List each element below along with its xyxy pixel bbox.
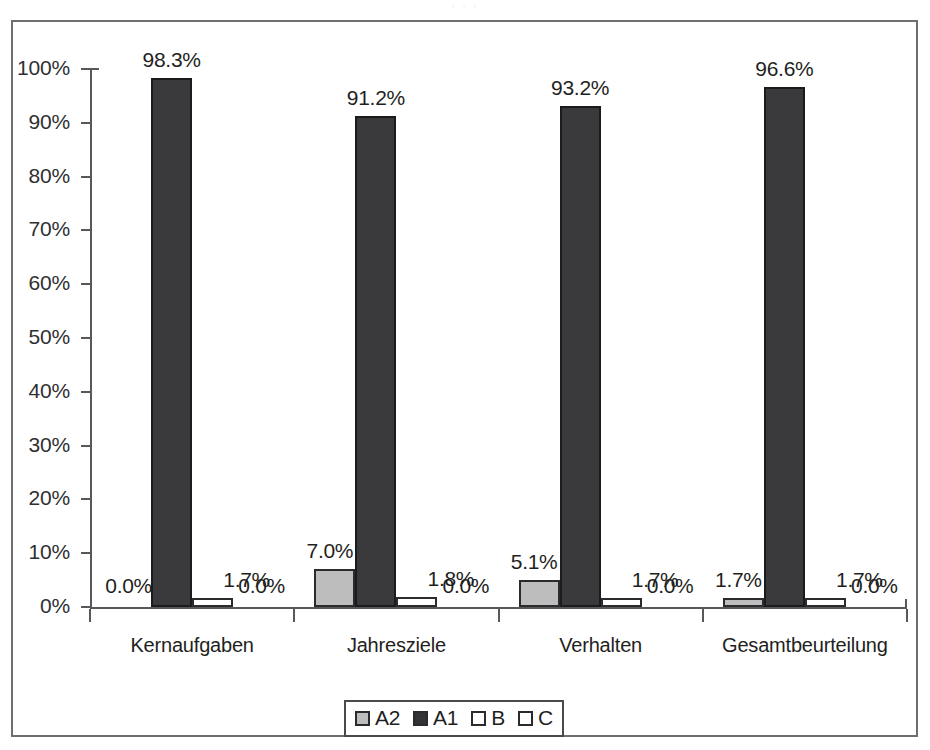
y-axis-tick: 70% bbox=[81, 229, 90, 231]
y-axis-tick-label: 30% bbox=[29, 432, 70, 456]
y-axis-tick: 30% bbox=[81, 445, 90, 447]
bar-value-label-a1-0: 98.3% bbox=[143, 48, 201, 72]
chart-legend: A2A1BC bbox=[344, 700, 564, 737]
y-axis-tick-label: 40% bbox=[29, 378, 70, 402]
bar-value-label-a1-3: 96.6% bbox=[755, 57, 813, 81]
legend-swatch-a2 bbox=[355, 711, 370, 726]
y-axis-tick: 10% bbox=[81, 552, 90, 554]
y-axis-tick: 0% bbox=[81, 606, 90, 608]
y-axis-line bbox=[90, 68, 92, 609]
x-axis-category-label: Jahresziele bbox=[294, 634, 498, 657]
x-axis-end-cap bbox=[905, 599, 907, 609]
bar-value-label-a1-2: 93.2% bbox=[551, 76, 609, 100]
legend-item-a2[interactable]: A2 bbox=[355, 706, 400, 730]
bar-a1-1[interactable] bbox=[355, 116, 396, 607]
y-axis-tick-label: 90% bbox=[29, 109, 70, 133]
bar-value-label-a1-1: 91.2% bbox=[347, 86, 405, 110]
x-axis-tick bbox=[702, 609, 704, 622]
bar-b-3[interactable] bbox=[805, 598, 846, 607]
y-axis-tick-label: 70% bbox=[29, 217, 70, 241]
legend-item-label: A2 bbox=[375, 706, 400, 730]
bar-a1-2[interactable] bbox=[560, 106, 601, 607]
y-axis-tick: 90% bbox=[81, 122, 90, 124]
bar-value-label-c-2: 0.0% bbox=[647, 574, 694, 598]
bar-value-label-a2-0: 0.0% bbox=[105, 574, 152, 598]
y-axis-tick-label: 20% bbox=[29, 486, 70, 510]
bar-value-label-a2-1: 7.0% bbox=[307, 539, 354, 563]
legend-item-label: C bbox=[538, 706, 553, 730]
y-axis-tick-label: 100% bbox=[17, 56, 70, 80]
y-axis-tick: 60% bbox=[81, 283, 90, 285]
y-axis-tick: 50% bbox=[81, 337, 90, 339]
bar-a1-0[interactable] bbox=[151, 78, 192, 607]
cropped-title-artifact: · · · bbox=[0, 0, 930, 12]
x-axis-tick bbox=[498, 609, 500, 622]
bar-a1-3[interactable] bbox=[764, 87, 805, 607]
legend-item-b[interactable]: B bbox=[471, 706, 505, 730]
legend-item-label: B bbox=[491, 706, 505, 730]
x-axis-tick bbox=[293, 609, 295, 622]
bar-value-label-c-0: 0.0% bbox=[238, 574, 285, 598]
x-axis-category-label: Kernaufgaben bbox=[90, 634, 294, 657]
y-axis-tick: 20% bbox=[81, 498, 90, 500]
legend-item-c[interactable]: C bbox=[518, 706, 553, 730]
legend-swatch-c bbox=[518, 711, 533, 726]
x-axis-category-label: Verhalten bbox=[499, 634, 703, 657]
legend-swatch-b bbox=[471, 711, 486, 726]
bar-value-label-a2-3: 1.7% bbox=[715, 568, 762, 592]
y-axis-tick: 80% bbox=[81, 176, 90, 178]
bar-a2-1[interactable] bbox=[314, 569, 355, 607]
y-axis-tick: 100% bbox=[81, 68, 90, 70]
bar-value-label-a2-2: 5.1% bbox=[511, 550, 558, 574]
y-axis-top-cap bbox=[90, 68, 99, 70]
x-axis-category-label: Gesamtbeurteilung bbox=[703, 634, 907, 657]
y-axis-tick-label: 10% bbox=[29, 540, 70, 564]
legend-swatch-a1 bbox=[413, 711, 428, 726]
bar-a2-2[interactable] bbox=[519, 580, 560, 607]
bar-a2-3[interactable] bbox=[723, 598, 764, 607]
bar-b-2[interactable] bbox=[601, 598, 642, 607]
chart-frame: 0%10%20%30%40%50%60%70%80%90%100% 0.0%98… bbox=[11, 20, 918, 737]
legend-item-label: A1 bbox=[433, 706, 458, 730]
plot-area: 0%10%20%30%40%50%60%70%80%90%100% 0.0%98… bbox=[13, 22, 916, 735]
y-axis-tick-label: 50% bbox=[29, 325, 70, 349]
y-axis-tick-label: 80% bbox=[29, 163, 70, 187]
legend-item-a1[interactable]: A1 bbox=[413, 706, 458, 730]
bar-value-label-c-3: 0.0% bbox=[851, 574, 898, 598]
bar-value-label-c-1: 0.0% bbox=[443, 574, 490, 598]
y-axis-tick-label: 60% bbox=[29, 271, 70, 295]
bar-b-0[interactable] bbox=[192, 598, 233, 607]
y-axis-tick: 40% bbox=[81, 391, 90, 393]
x-axis-tick bbox=[906, 609, 908, 622]
x-axis-tick bbox=[89, 609, 91, 622]
bar-b-1[interactable] bbox=[396, 597, 437, 607]
y-axis-tick-label: 0% bbox=[40, 594, 70, 618]
